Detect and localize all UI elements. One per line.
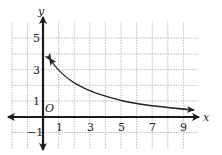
y-tick-3: 3: [33, 64, 40, 77]
y-axis-label: y: [37, 5, 45, 18]
x-tick-1: 1: [56, 121, 63, 134]
graph: y x O 1 3 5 7 9 5 3 1 −1: [0, 0, 222, 155]
x-tick-7: 7: [149, 121, 156, 134]
x-tick-9: 9: [180, 121, 187, 134]
y-tick-neg1: −1: [27, 126, 43, 139]
x-tick-3: 3: [87, 121, 94, 134]
x-tick-5: 5: [118, 121, 125, 134]
y-tick-5: 5: [33, 32, 40, 45]
x-axis-label: x: [203, 111, 210, 124]
y-tick-1: 1: [33, 95, 40, 108]
origin-label: O: [45, 102, 54, 115]
